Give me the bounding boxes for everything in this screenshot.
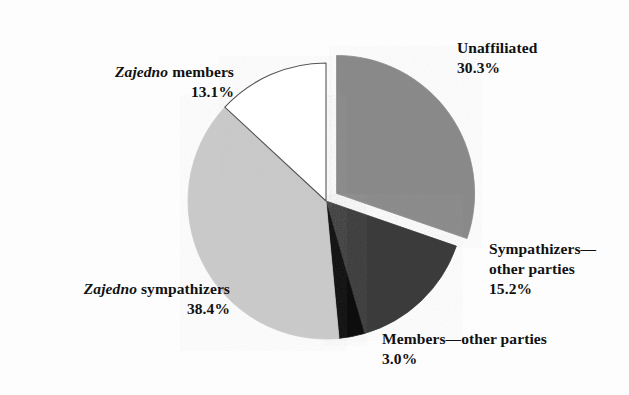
slice-label-unaffiliated-text: Unaffiliated [457,39,537,56]
slice-label-zajedno-members-text: members [168,63,234,80]
pie-chart-figure: Unaffiliated 30.3% Zajedno members 13.1%… [0,0,629,395]
slice-label-zajedno-members: Zajedno members 13.1% [115,62,234,102]
slice-label-zajedno-sympathizers-emphasis: Zajedno [84,280,137,297]
slice-label-sympathizers-other-parties-percent: 15.2% [489,279,596,299]
slice-label-sympathizers-other-parties: Sympathizers— other parties 15.2% [489,239,596,298]
slice-label-members-other-parties-percent: 3.0% [382,349,547,369]
slice-label-members-other-parties: Members—other parties 3.0% [382,329,547,369]
slice-label-zajedno-members-percent: 13.1% [115,82,234,102]
slice-label-members-other-parties-text: Members—other parties [382,330,547,347]
slice-label-unaffiliated: Unaffiliated 30.3% [457,38,537,78]
slice-label-zajedno-sympathizers-text: sympathizers [137,280,230,297]
pie-slice-unaffiliated [337,55,475,238]
slice-label-zajedno-members-emphasis: Zajedno [115,63,168,80]
slice-label-zajedno-sympathizers-percent: 38.4% [84,299,230,319]
slice-label-sympathizers-other-parties-line2: other parties [489,259,596,279]
slice-label-zajedno-sympathizers: Zajedno sympathizers 38.4% [84,279,230,319]
slice-label-sympathizers-other-parties-line1: Sympathizers— [489,240,596,257]
slice-label-unaffiliated-percent: 30.3% [457,58,537,78]
